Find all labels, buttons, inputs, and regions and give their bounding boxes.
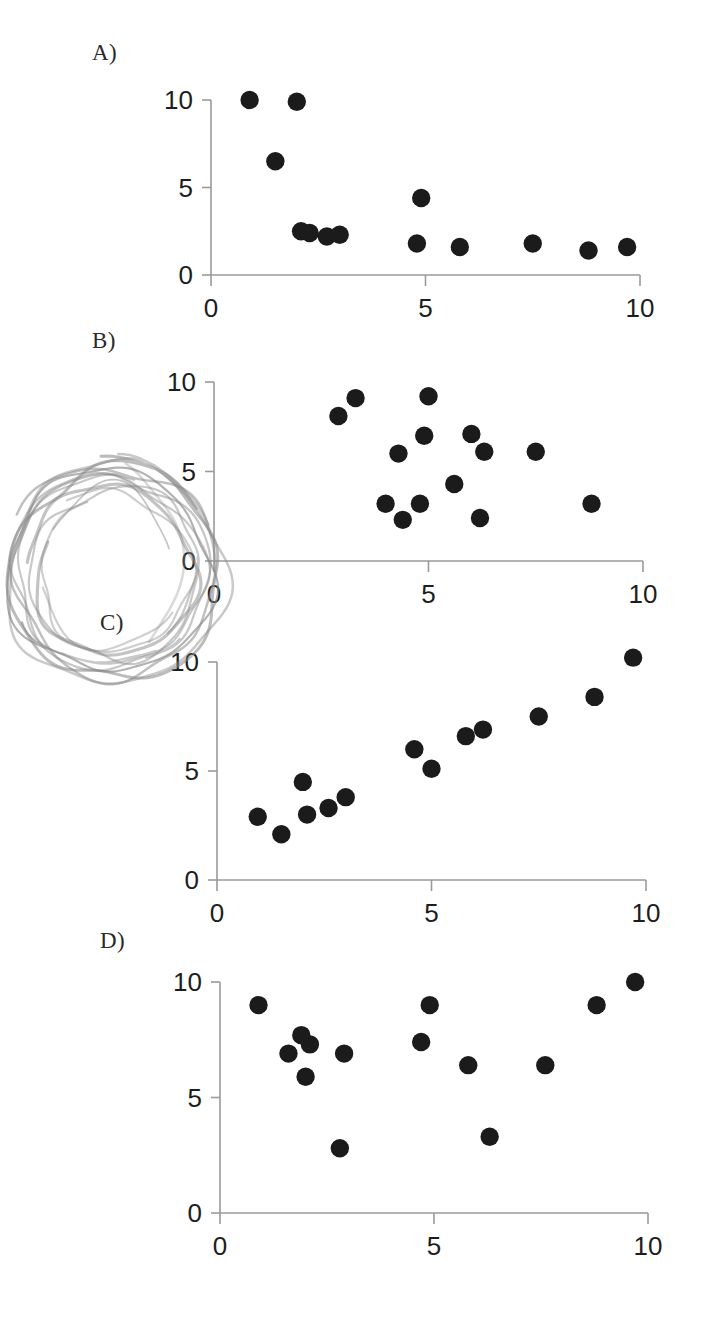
data-point <box>480 1128 498 1146</box>
data-point <box>626 973 644 991</box>
scatterplot-figure: A) 05100510 B) 05100510 C) 05100510 D) 0… <box>0 0 707 1318</box>
data-point <box>279 1044 297 1062</box>
panel-d-plot: 05100510 <box>0 0 707 1270</box>
x-tick-label: 0 <box>213 1231 227 1261</box>
x-tick-label: 5 <box>427 1231 441 1261</box>
data-point <box>459 1056 477 1074</box>
data-point <box>301 1035 319 1053</box>
data-point <box>296 1068 314 1086</box>
data-point <box>412 1033 430 1051</box>
x-tick-label: 10 <box>634 1231 663 1261</box>
data-point <box>249 996 267 1014</box>
data-point <box>421 996 439 1014</box>
y-tick-label: 10 <box>173 967 202 997</box>
data-point <box>536 1056 554 1074</box>
y-tick-label: 0 <box>188 1198 202 1228</box>
data-point <box>331 1139 349 1157</box>
data-point <box>587 996 605 1014</box>
data-point <box>335 1044 353 1062</box>
y-tick-label: 5 <box>188 1083 202 1113</box>
